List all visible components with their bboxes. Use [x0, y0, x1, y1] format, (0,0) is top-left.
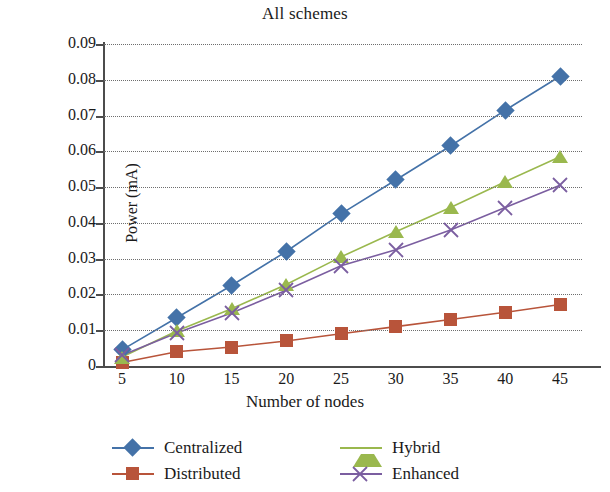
legend-label: Hybrid [384, 438, 440, 458]
y-tick-label: 0.05 [18, 178, 96, 194]
data-point-distributed [499, 306, 512, 319]
x-tick-label: 5 [102, 370, 142, 388]
y-tick-label-text: 0.03 [24, 250, 96, 266]
x-tick-label: 40 [485, 370, 525, 388]
y-tick-mark [96, 259, 104, 261]
legend-item-hybrid[interactable]: Hybrid [338, 436, 440, 460]
data-point-hybrid [443, 201, 459, 214]
y-tick-label: 0.07 [18, 107, 96, 123]
y-tick-label: 0.03 [18, 250, 96, 266]
x-tick-label: 15 [212, 370, 252, 388]
y-tick-label: 0.09 [18, 35, 96, 51]
legend-label: Centralized [156, 438, 242, 458]
legend-symbol-diamond-icon [110, 438, 156, 458]
legend-item-enhanced[interactable]: Enhanced [338, 462, 459, 486]
gridline [104, 44, 582, 45]
data-point-hybrid [552, 150, 568, 163]
y-tick-label-text: 0 [24, 357, 96, 373]
data-point-distributed [335, 327, 348, 340]
gridline [104, 294, 582, 295]
legend-marker-x-icon [352, 466, 365, 479]
gridline [104, 151, 582, 152]
y-tick-label: 0.01 [18, 321, 96, 337]
y-tick-label: 0.06 [18, 142, 96, 158]
legend-label: Enhanced [384, 464, 459, 484]
y-tick-label-text: 0.09 [24, 35, 96, 51]
data-point-enhanced [552, 177, 568, 193]
gridline [104, 80, 582, 81]
x-tick-label: 20 [266, 370, 306, 388]
data-point-distributed [554, 298, 567, 311]
x-tick-label: 25 [321, 370, 361, 388]
legend-symbol-x-icon [338, 464, 384, 484]
gridline [104, 116, 582, 117]
y-tick-mark [96, 330, 104, 332]
y-tick-label-text: 0.06 [24, 142, 96, 158]
y-tick-mark [96, 80, 104, 82]
data-point-distributed [444, 313, 457, 326]
y-tick-mark [96, 294, 104, 296]
y-axis-title: Power (mA) [123, 103, 141, 303]
data-point-enhanced [333, 258, 349, 274]
legend-marker-square-icon [126, 467, 139, 480]
x-tick-label: 10 [157, 370, 197, 388]
y-tick-label-text: 0.07 [24, 107, 96, 123]
y-tick-label-text: 0.05 [24, 178, 96, 194]
data-point-enhanced [114, 347, 130, 363]
gridline [104, 223, 582, 224]
x-tick-label: 45 [540, 370, 580, 388]
data-point-distributed [225, 341, 238, 354]
data-point-distributed [389, 320, 402, 333]
y-tick-label-text: 0.08 [24, 71, 96, 87]
chart-legend: CentralizedDistributedHybridEnhanced [110, 436, 580, 488]
data-point-enhanced [169, 325, 185, 341]
legend-symbol-triangle-icon [338, 438, 384, 458]
y-tick-label-text: 0.04 [24, 214, 96, 230]
legend-item-distributed[interactable]: Distributed [110, 462, 241, 486]
legend-item-centralized[interactable]: Centralized [110, 436, 242, 460]
data-point-hybrid [497, 175, 513, 188]
legend-label: Distributed [156, 464, 241, 484]
data-point-enhanced [497, 200, 513, 216]
y-tick-label: 0.04 [18, 214, 96, 230]
data-point-enhanced [388, 242, 404, 258]
legend-symbol-square-icon [110, 464, 156, 484]
y-tick-mark [96, 223, 104, 225]
data-point-hybrid [388, 225, 404, 238]
x-tick-label: 30 [376, 370, 416, 388]
y-tick-mark [96, 151, 104, 153]
y-tick-mark [96, 116, 104, 118]
y-tick-label: 0.08 [18, 71, 96, 87]
y-tick-label-text: 0.02 [24, 285, 96, 301]
x-axis-title: Number of nodes [0, 392, 610, 412]
data-point-distributed [170, 345, 183, 358]
data-point-enhanced [443, 222, 459, 238]
y-tick-label-text: 0.01 [24, 321, 96, 337]
y-tick-mark [96, 366, 104, 368]
x-tick-label: 35 [431, 370, 471, 388]
y-tick-mark [96, 187, 104, 189]
legend-marker-diamond-icon [123, 438, 141, 456]
x-axis-line [103, 366, 601, 368]
data-point-enhanced [278, 282, 294, 298]
plot-area: Power (mA) [104, 44, 582, 366]
chart-figure: All schemes 00.010.020.030.040.050.060.0… [0, 0, 610, 492]
data-point-distributed [280, 334, 293, 347]
data-point-enhanced [224, 305, 240, 321]
y-tick-label: 0 [18, 357, 96, 373]
y-tick-label: 0.02 [18, 285, 96, 301]
y-tick-mark [96, 44, 104, 46]
chart-title: All schemes [0, 4, 610, 24]
